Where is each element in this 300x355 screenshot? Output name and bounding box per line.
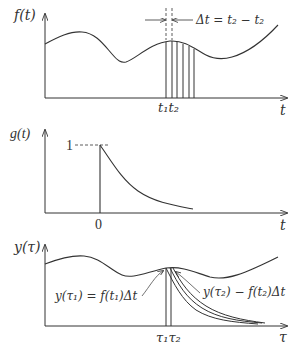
g-decay-curve bbox=[100, 145, 193, 209]
y-y-label: y(τ) bbox=[13, 239, 41, 255]
convolution-diagram: f(t) t Δt = t₂ − t₂ t₁t₂ g(t) t 1 0 bbox=[0, 0, 300, 355]
g-x-label: t bbox=[280, 217, 286, 233]
y-x-label: τ bbox=[279, 329, 287, 345]
g-y-label: g(t) bbox=[10, 126, 31, 142]
y-tick-tau1tau2: τ₁τ₂ bbox=[156, 330, 181, 345]
f-y-label: f(t) bbox=[13, 7, 36, 23]
annotation-y-tau1: y(τ₁) = f(t₁)Δt bbox=[54, 289, 137, 303]
f-tick-t1t2: t₁t₂ bbox=[158, 100, 179, 115]
leader-left bbox=[142, 271, 163, 296]
delta-t-indicator: Δt = t₂ − t₂ bbox=[145, 8, 264, 40]
g-panel: g(t) t 1 0 bbox=[10, 126, 287, 233]
f-x-label: t bbox=[280, 102, 286, 118]
delta-t-annotation: Δt = t₂ − t₂ bbox=[195, 13, 264, 27]
annotation-y-tau2: y(τ₂) − f(t₂)Δt bbox=[202, 285, 285, 299]
f-panel: f(t) t Δt = t₂ − t₂ t₁t₂ bbox=[13, 7, 287, 118]
sample-strips bbox=[166, 41, 194, 98]
y-curve bbox=[45, 256, 278, 278]
y-panel: y(τ) τ y(τ₁) = f(t₁)Δt y(τ₂) − f(t₂)Δt τ… bbox=[13, 239, 287, 345]
f-curve bbox=[45, 25, 278, 62]
g-tick-0: 0 bbox=[95, 217, 102, 232]
g-y-tick-1: 1 bbox=[66, 138, 73, 153]
